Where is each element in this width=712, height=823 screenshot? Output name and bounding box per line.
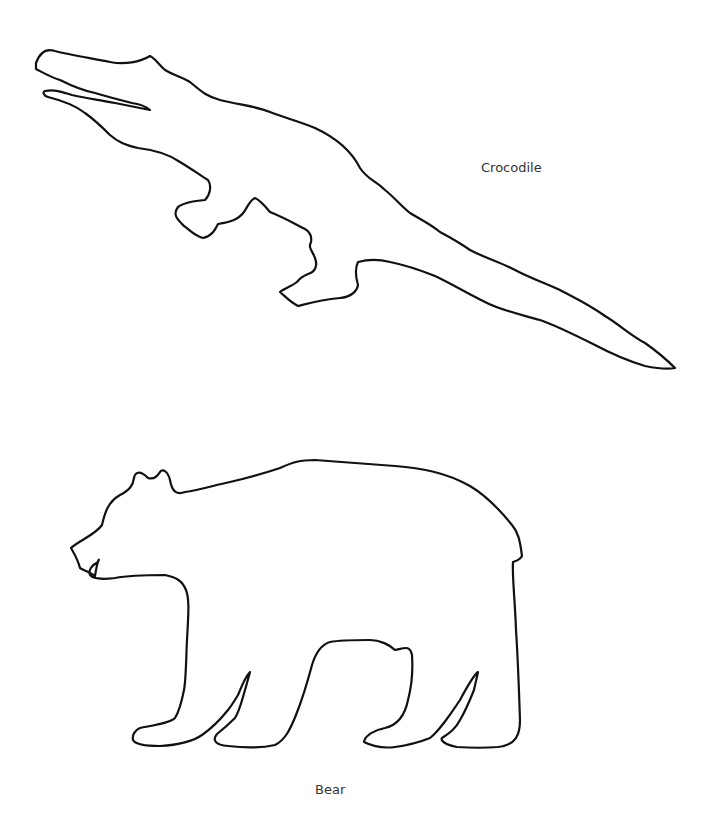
bear-figure bbox=[0, 0, 712, 823]
bear-outline-icon bbox=[0, 0, 712, 823]
bear-label: Bear bbox=[315, 782, 345, 797]
